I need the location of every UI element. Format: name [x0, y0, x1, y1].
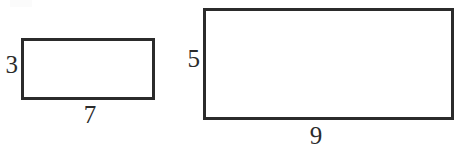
scan-artifact — [10, 0, 32, 7]
figure-canvas: 3 7 5 9 — [0, 0, 460, 149]
small-rectangle — [21, 38, 155, 100]
small-rectangle-width-label: 7 — [76, 102, 104, 127]
small-rectangle-height-label: 3 — [1, 52, 18, 77]
large-rectangle-width-label: 9 — [302, 123, 330, 148]
large-rectangle-height-label: 5 — [182, 46, 200, 71]
large-rectangle — [203, 8, 454, 120]
